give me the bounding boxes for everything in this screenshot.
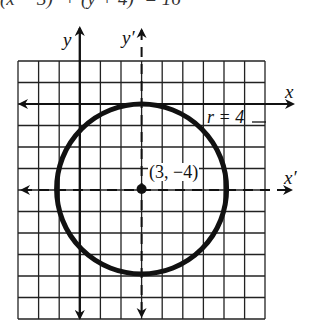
- center-label: (3, −4): [148, 163, 199, 181]
- y-axis-label: y: [63, 30, 71, 49]
- radius-label: r = 4: [207, 108, 244, 126]
- x-axis-label: x: [285, 82, 293, 101]
- center-point: [137, 184, 147, 194]
- x-prime-axis-label: x′: [284, 168, 297, 187]
- y-prime-axis-label: y′: [122, 28, 135, 47]
